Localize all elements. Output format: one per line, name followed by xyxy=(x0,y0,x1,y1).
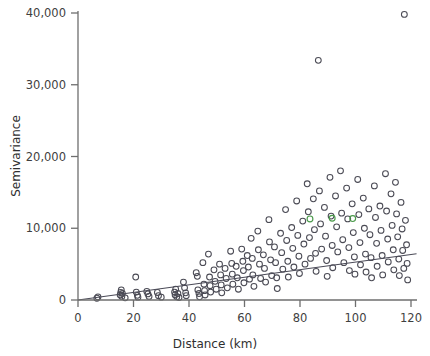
y-tick-label: 20,000 xyxy=(26,150,66,164)
x-tick-label: 120 xyxy=(400,311,422,325)
x-tick-label: 0 xyxy=(74,311,81,325)
y-tick-label: 10,000 xyxy=(26,221,66,235)
y-axis-title: Semivariance xyxy=(9,115,23,197)
y-tick-label: 0 xyxy=(59,293,66,307)
y-tick-label: 30,000 xyxy=(26,78,66,92)
x-tick-label: 100 xyxy=(345,311,367,325)
x-tick-label: 20 xyxy=(126,311,141,325)
x-tick-label: 80 xyxy=(293,311,308,325)
x-tick-label: 60 xyxy=(237,311,252,325)
y-tick-label: 40,000 xyxy=(26,6,66,20)
x-tick-label: 40 xyxy=(182,311,197,325)
x-axis-title: Distance (km) xyxy=(173,337,257,351)
chart-svg: 010,00020,00030,00040,000 02040608010012… xyxy=(0,0,430,356)
semivariogram-figure: 010,00020,00030,00040,000 02040608010012… xyxy=(0,0,430,356)
